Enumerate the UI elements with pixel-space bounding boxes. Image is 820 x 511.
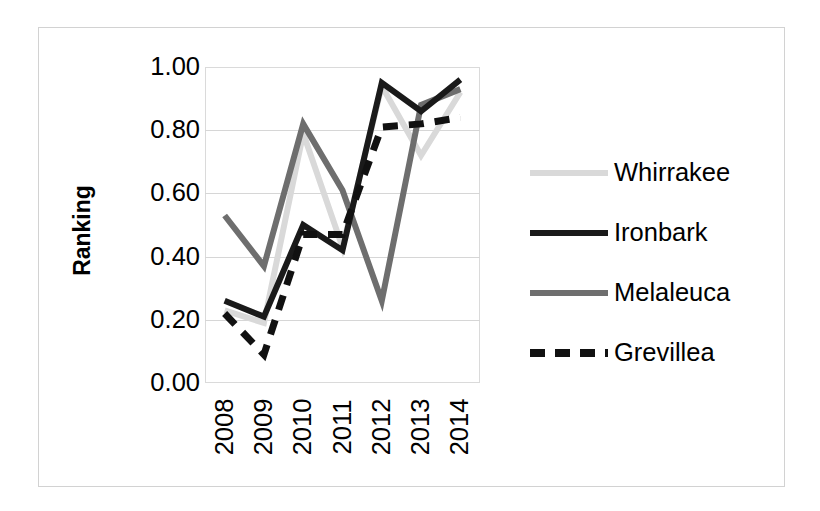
legend-label: Whirrakee: [614, 160, 730, 186]
y-tick-label: 0.40: [112, 244, 200, 270]
legend-item-ironbark[interactable]: Ironbark: [528, 203, 778, 263]
legend-item-grevillea[interactable]: Grevillea: [528, 323, 778, 383]
legend-item-whirrakee[interactable]: Whirrakee: [528, 143, 778, 203]
legend-line-black-solid: [528, 224, 610, 242]
y-tick-label: 0.80: [112, 117, 200, 143]
y-tick-label: 0.20: [112, 307, 200, 333]
series-line-whirrakee: [225, 86, 461, 323]
x-tick-label: 2011: [328, 383, 358, 473]
legend-item-melaleuca[interactable]: Melaleuca: [528, 263, 778, 323]
x-tick-text: 2009: [251, 399, 277, 456]
x-tick-label: 2009: [249, 383, 279, 473]
legend-label: Melaleuca: [614, 280, 730, 306]
legend-line-black-dashed: [528, 344, 610, 362]
y-axis-title: Ranking: [62, 150, 102, 310]
x-axis-tick-labels: 2008200920102011201220132014: [205, 383, 480, 483]
x-tick-label: 2013: [406, 383, 436, 473]
x-tick-text: 2014: [448, 399, 474, 456]
x-tick-text: 2011: [330, 400, 356, 455]
x-tick-text: 2010: [290, 399, 316, 456]
x-tick-label: 2010: [288, 383, 318, 473]
y-axis-tick-labels: 1.000.800.600.400.200.00: [105, 0, 200, 511]
y-axis-title-label: Ranking: [69, 185, 96, 276]
series-line-melaleuca: [225, 89, 461, 301]
x-tick-label: 2008: [210, 383, 240, 473]
chart-screenshot: Ranking 1.000.800.600.400.200.00 2008200…: [0, 0, 820, 511]
x-tick-label: 2014: [445, 383, 475, 473]
legend-label: Grevillea: [614, 340, 715, 366]
legend-line-gray-solid: [528, 284, 610, 302]
x-tick-text: 2012: [369, 399, 395, 456]
y-tick-label: 0.00: [112, 370, 200, 396]
x-tick-label: 2012: [367, 383, 397, 473]
x-tick-text: 2013: [408, 399, 434, 456]
plot-area: [205, 67, 480, 383]
x-tick-text: 2008: [212, 399, 238, 456]
chart-legend: WhirrakeeIronbarkMelaleucaGrevillea: [528, 143, 778, 383]
y-tick-label: 1.00: [112, 54, 200, 80]
series-lines: [205, 67, 480, 383]
legend-line-light-gray-solid: [528, 164, 610, 182]
legend-label: Ironbark: [614, 220, 708, 246]
y-tick-label: 0.60: [112, 180, 200, 206]
